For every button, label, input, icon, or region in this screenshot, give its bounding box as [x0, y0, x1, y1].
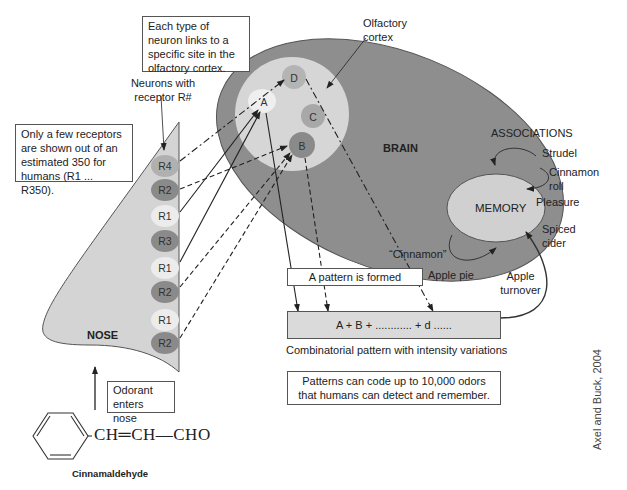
- combinatorial-caption: Combinatorial pattern with intensity var…: [286, 343, 507, 357]
- receptor-label: R1: [158, 210, 172, 222]
- site-b-label: B: [298, 140, 305, 152]
- benzene-ring: [33, 413, 92, 459]
- receptor-label: R2: [158, 184, 172, 196]
- assoc-cinnamon-roll: Cinnamon roll: [549, 165, 594, 193]
- assoc-apple-pie: Apple pie: [428, 268, 474, 282]
- combinatorial-pattern-box: A + B + ............ + d ......: [287, 311, 501, 339]
- patterns-code-callout: Patterns can code up to 10,000 odors tha…: [287, 371, 501, 405]
- assoc-pleasure: Pleasure: [536, 195, 579, 209]
- pattern-formed-box: A pattern is formed: [287, 268, 423, 286]
- molecule-name: Cinnamaldehyde: [72, 467, 148, 481]
- site-c-label: C: [309, 111, 317, 123]
- receptor-label: R4: [158, 160, 172, 172]
- site-d-label: D: [290, 72, 298, 84]
- site-a-label: A: [260, 96, 267, 108]
- odorant-enters-callout: Odorant enters nose: [107, 381, 175, 413]
- olfactory-cortex-label: Olfactory cortex: [363, 16, 415, 44]
- receptor-label: R2: [158, 286, 172, 298]
- neurons-with-receptor-label: Neurons with receptor R#: [128, 76, 198, 104]
- molecule-formula: CH═CH—CHO: [94, 425, 211, 445]
- receptor-label: R1: [158, 262, 172, 274]
- receptors-note-callout: Only a few receptors are shown out of an…: [15, 124, 133, 182]
- receptor-label: R3: [158, 235, 172, 247]
- olfaction-diagram: A D C B BRAIN MEMORY NOSE R4 R2 R1 R3 R1…: [0, 0, 627, 490]
- assoc-cinnamon-quote: “Cinnamon”: [389, 247, 446, 261]
- brain-label: BRAIN: [383, 142, 418, 154]
- assoc-strudel: Strudel: [542, 146, 577, 160]
- neuron-links-callout: Each type of neuron links to a specific …: [142, 16, 250, 72]
- receptor-label: R1: [158, 314, 172, 326]
- memory-label: MEMORY: [475, 202, 527, 214]
- credit-text: Axel and Buck, 2004: [591, 349, 603, 450]
- nose-label: NOSE: [87, 329, 118, 341]
- receptor-label: R2: [158, 337, 172, 349]
- assoc-spiced-cider: Spiced cider: [542, 222, 582, 250]
- associations-title: ASSOCIATIONS: [491, 126, 573, 140]
- assoc-apple-turnover: Apple turnover: [493, 269, 548, 297]
